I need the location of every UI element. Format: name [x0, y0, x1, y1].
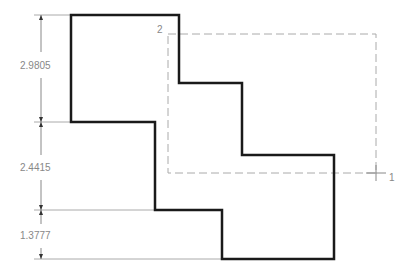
dimension-label-3: 1.3777	[20, 230, 51, 241]
crosshair-icon	[366, 165, 386, 181]
corner-label-1: 1	[389, 172, 395, 183]
dimension-label-1: 2.9805	[20, 60, 51, 71]
stepped-polygon[interactable]	[71, 15, 334, 259]
cad-canvas[interactable]: 2.9805 2.4415 1.3777 1 2	[0, 0, 414, 276]
dimension-label-2: 2.4415	[20, 162, 51, 173]
selection-window[interactable]	[168, 34, 376, 173]
corner-label-2: 2	[157, 24, 163, 35]
extension-lines	[34, 15, 222, 259]
